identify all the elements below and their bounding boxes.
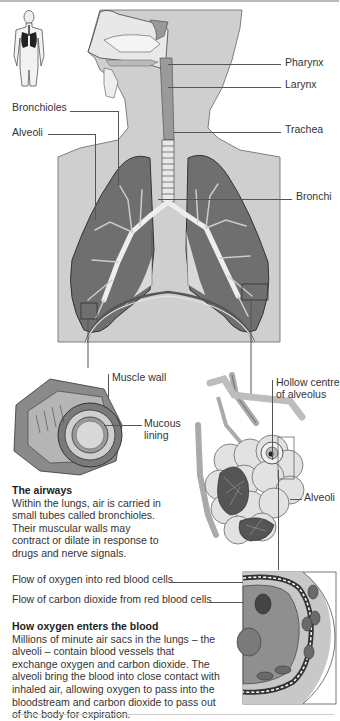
leader-bronchi: [158, 199, 292, 200]
leader-to-detail: [278, 470, 279, 570]
label-muscle-wall: Muscle wall: [112, 371, 166, 383]
oxygen-heading: How oxygen enters the blood: [12, 620, 222, 633]
leader-pharynx: [168, 64, 281, 65]
leader-mucous: [104, 425, 142, 426]
airways-heading: The airways: [12, 484, 162, 497]
leader-alveoli-h: [48, 134, 95, 135]
label-hollow-centre-2: of alveolus: [276, 388, 326, 400]
label-bronchioles: Bronchioles: [12, 101, 67, 113]
label-flow-co2: Flow of carbon dioxide from red blood ce…: [12, 593, 212, 605]
label-trachea: Trachea: [285, 123, 323, 135]
leader-flow-oxygen: [170, 582, 250, 583]
label-alveoli-top: Alveoli: [12, 126, 43, 138]
leader-muscle-wall: [108, 374, 109, 398]
label-hollow-centre-1: Hollow centre: [276, 376, 340, 388]
leader-bronchioles-h: [70, 111, 118, 112]
leader-hollow-centre: [272, 380, 273, 460]
bronchiole-cross-section: [10, 375, 130, 480]
label-pharynx: Pharynx: [285, 56, 324, 68]
oxygen-body: Millions of minute air sacs in the lungs…: [12, 633, 220, 721]
alveolus-capillary-detail: [243, 572, 336, 704]
label-mucous-1: Mucous: [144, 417, 181, 429]
label-bronchi: Bronchi: [296, 190, 332, 202]
leader-alveoli-cluster: [290, 499, 302, 500]
label-larynx: Larynx: [285, 78, 317, 90]
label-mucous-2: lining: [144, 429, 169, 441]
oxygen-paragraph: How oxygen enters the blood Millions of …: [12, 620, 222, 721]
leader-larynx: [168, 87, 281, 88]
label-alveoli-cluster: Alveoli: [304, 491, 335, 503]
body-silhouette: [0, 0, 339, 360]
trachea: [162, 140, 174, 202]
bottom-rule: [12, 714, 334, 715]
leader-trachea: [174, 132, 281, 133]
airways-body: Within the lungs, air is carried in smal…: [12, 497, 161, 559]
airways-paragraph: The airways Within the lungs, air is car…: [12, 484, 162, 560]
leader-alveoli-v: [95, 134, 96, 220]
leader-bronchioles-v: [118, 111, 119, 186]
label-flow-oxygen: Flow of oxygen into red blood cells: [12, 573, 173, 585]
